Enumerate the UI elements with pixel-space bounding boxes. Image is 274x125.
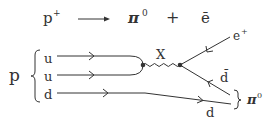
antiquark-label: d̄ xyxy=(220,69,228,85)
pion-label: π xyxy=(246,92,257,107)
pion-brace xyxy=(234,90,241,109)
proton-decay-diagram: p + π 0 + ē p u u d X e + d̄ xyxy=(0,0,274,125)
equation-proton-charge: + xyxy=(53,8,61,18)
pion-charge: 0 xyxy=(257,91,262,100)
equation-pion-charge: 0 xyxy=(142,8,148,18)
proton-label: p xyxy=(9,65,20,85)
quark-line-d xyxy=(57,93,231,104)
equation-antielectron: ē xyxy=(201,9,210,27)
equation-proton: p xyxy=(43,9,53,27)
quark-label-d: d xyxy=(44,87,52,102)
quark-label-u1: u xyxy=(44,51,52,66)
positron-label: e xyxy=(233,29,240,43)
quark-line-u2 xyxy=(57,65,143,75)
positron-line xyxy=(180,37,230,65)
equation-pion: π xyxy=(127,9,140,27)
outgoing-quark-label: d xyxy=(206,105,214,120)
quark-line-u1 xyxy=(57,56,143,65)
decay-equation: p + π 0 + ē xyxy=(43,8,210,27)
reaction-arrow-icon xyxy=(78,17,110,22)
equation-plus: + xyxy=(166,8,179,27)
x-boson-propagator xyxy=(143,64,180,67)
positron-charge: + xyxy=(241,27,248,36)
proton-brace xyxy=(31,50,40,102)
quark-label-u2: u xyxy=(44,69,52,84)
boson-label: X xyxy=(156,47,166,62)
